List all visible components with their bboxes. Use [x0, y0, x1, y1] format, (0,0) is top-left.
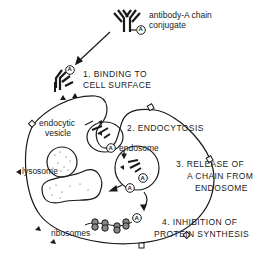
a-chain-marker: A	[68, 66, 72, 72]
bound-antibody-icon	[55, 70, 73, 92]
legend-line-2: conjugate	[149, 21, 186, 30]
a-chain-marker: A	[128, 185, 132, 191]
faded-caption	[4, 262, 270, 266]
binding-arrow-icon	[76, 32, 110, 64]
step-4-line-2: PROTEIN SYNTHESIS	[154, 230, 249, 239]
antibody-toxin-diagram: A A A A A A antibody-A chain conjugate 1…	[0, 0, 274, 269]
step-2-line-1: 2. ENDOCYTOSIS	[127, 124, 204, 133]
step-3-line-3: ENDOSOME	[195, 184, 248, 193]
step-3-line-1: 3. RELEASE OF	[176, 160, 244, 169]
a-chain-marker: A	[141, 175, 145, 181]
label-lysosome: lysosome	[22, 167, 58, 176]
step-1-line-2: CELL SURFACE	[83, 81, 151, 90]
a-chain-marker: A	[139, 26, 143, 32]
step-4-line-1: 4. INHIBITION OF	[162, 218, 237, 227]
a-chain-marker: A	[135, 215, 139, 221]
ribosomes-icon	[85, 219, 132, 233]
label-ribosomes: ribosomes	[51, 229, 90, 238]
a-chain-marker: A	[109, 145, 113, 151]
label-vesicle: vesicle	[45, 129, 71, 138]
step-1-line-1: 1. BINDING TO	[83, 70, 147, 79]
label-endosome: endosome	[119, 144, 159, 153]
label-endocytic: endocytic	[39, 119, 75, 128]
step-3-line-2: A CHAIN FROM	[187, 172, 253, 181]
legend-line-1: antibody-A chain	[149, 11, 212, 20]
